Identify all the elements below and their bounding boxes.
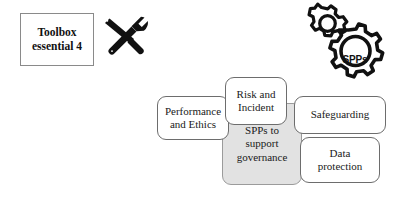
flow-box-risk-and-incident[interactable]: Risk and Incident bbox=[225, 77, 287, 125]
safeguarding-line-1: Safeguarding bbox=[311, 108, 370, 121]
toolbox-label-box: Toolbox essential 4 bbox=[20, 13, 94, 66]
data-line-2: protection bbox=[318, 160, 363, 173]
flow-box-performance-and-ethics[interactable]: Performance and Ethics bbox=[157, 96, 229, 140]
wrench-screwdriver-icon bbox=[98, 8, 154, 64]
toolbox-title-line-2: essential 4 bbox=[32, 40, 82, 54]
flow-box-data-protection[interactable]: Data protection bbox=[300, 137, 380, 183]
center-line-1: SPPs to bbox=[245, 124, 279, 137]
risk-line-2: Incident bbox=[238, 101, 274, 114]
flow-box-safeguarding[interactable]: Safeguarding bbox=[294, 96, 386, 134]
center-line-2: support bbox=[246, 137, 279, 150]
risk-line-1: Risk and bbox=[237, 88, 276, 101]
center-line-3: governance bbox=[237, 151, 288, 164]
performance-line-2: and Ethics bbox=[170, 118, 216, 131]
performance-line-1: Performance bbox=[165, 105, 221, 118]
toolbox-title-line-1: Toolbox bbox=[37, 26, 76, 40]
data-line-1: Data bbox=[330, 147, 351, 160]
gears-icon: SPPs bbox=[298, 2, 386, 90]
diagram-canvas: Toolbox essential 4 bbox=[0, 0, 403, 210]
gears-spps-label: SPPs bbox=[336, 54, 374, 65]
